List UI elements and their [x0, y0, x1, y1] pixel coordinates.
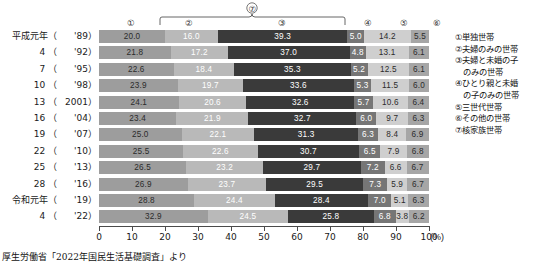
year-label: 22 （'10） [0, 145, 97, 158]
bar-row: 20.016.039.35.014.25.5 [99, 30, 429, 43]
segment-value: 3.8 [396, 212, 408, 221]
legend-item-2: ②夫婦のみの世帯 [455, 44, 540, 56]
bar-segment-5: 3.8 [396, 210, 409, 223]
axis-tick-label: 50 [258, 232, 269, 242]
axis-tick-label: 30 [192, 232, 203, 242]
bar-row: 32.924.525.86.83.86.2 [99, 210, 429, 223]
axis-tick [165, 226, 166, 231]
segment-value: 5.9 [391, 180, 403, 189]
bar-segment-5: 8.4 [378, 128, 406, 141]
year-western: '10） [57, 145, 97, 158]
segment-value: 7.0 [374, 196, 386, 205]
axis-tick [132, 226, 133, 231]
segment-value: 6.8 [412, 147, 424, 156]
bar-segment-6: 6.2 [409, 210, 429, 223]
bar-segment-6: 6.7 [407, 178, 429, 191]
axis-tick [363, 226, 364, 231]
segment-value: 5.0 [350, 32, 362, 41]
legend-item-8: ⑥その他の世帯 [455, 113, 540, 125]
year-label: 16 （'04） [0, 112, 97, 125]
bar-segment-5: 6.6 [385, 161, 407, 174]
segment-value: 30.7 [300, 147, 317, 156]
segment-value: 6.3 [413, 196, 425, 205]
bar-segment-5: 12.5 [368, 63, 409, 76]
segment-value: 29.7 [304, 163, 321, 172]
bar-row: 25.022.131.36.38.46.9 [99, 128, 429, 141]
bar-segment-4: 6.5 [359, 145, 380, 158]
bar-segment-5: 7.9 [380, 145, 406, 158]
year-label: 25 （'13） [0, 161, 97, 174]
segment-value: 22.1 [210, 130, 227, 139]
segment-value: 23.9 [130, 81, 147, 90]
segment-value: 6.7 [412, 163, 424, 172]
bar-segment-1: 26.9 [99, 178, 188, 191]
bar-row: 28.824.428.47.05.16.3 [99, 194, 429, 207]
segment-value: 6.6 [390, 163, 402, 172]
segment-value: 13.1 [379, 48, 396, 57]
bar-segment-4: 5.3 [354, 79, 371, 92]
bar-segment-6: 6.8 [407, 145, 429, 158]
bar-segment-1: 26.5 [99, 161, 186, 174]
segment-value: 7.2 [367, 163, 379, 172]
segment-value: 25.8 [323, 212, 340, 221]
bar-row: 23.919.733.65.311.56.0 [99, 79, 429, 92]
bar-segment-4: 7.3 [363, 178, 387, 191]
bar-segment-3: 35.3 [234, 63, 350, 76]
axis-tick-label: 10 [126, 232, 137, 242]
year-western: '89） [57, 30, 97, 43]
bar-segment-1: 25.0 [99, 128, 182, 141]
segment-value: 33.6 [290, 81, 307, 90]
segment-value: 31.3 [298, 130, 315, 139]
segment-value: 17.2 [191, 48, 208, 57]
bar-segment-1: 23.9 [99, 79, 178, 92]
year-era: 令和元年（ [12, 195, 57, 205]
bar-segment-6: 6.4 [408, 96, 429, 109]
segment-value: 8.4 [386, 130, 398, 139]
year-era: 13 （ [34, 97, 57, 107]
segment-value: 37.0 [280, 48, 297, 57]
year-label: 平成元年（'89） [0, 30, 97, 43]
year-era: 19 （ [34, 129, 57, 139]
bar-segment-5: 11.5 [371, 79, 409, 92]
segment-value: 14.2 [379, 32, 396, 41]
axis-tick [429, 226, 430, 231]
column-marker-2: ② [185, 19, 193, 28]
x-axis-unit: (%) [430, 232, 444, 242]
year-era: 10 （ [34, 80, 57, 90]
axis-tick-label: 70 [324, 232, 335, 242]
bar-segment-3: 33.6 [243, 79, 354, 92]
year-western: '19） [57, 194, 97, 207]
column-marker-1: ① [127, 19, 135, 28]
segment-value: 7.3 [369, 180, 381, 189]
segment-value: 6.0 [360, 114, 372, 123]
year-western: '13） [57, 161, 97, 174]
bar-segment-3: 31.3 [254, 128, 357, 141]
segment-value: 28.8 [138, 196, 155, 205]
segment-value: 32.9 [145, 212, 162, 221]
segment-value: 6.0 [413, 81, 425, 90]
bar-row: 26.923.729.57.35.96.7 [99, 178, 429, 191]
bar-segment-1: 23.4 [99, 112, 176, 125]
bar-segment-4: 6.3 [358, 128, 379, 141]
bar-segment-4: 6.8 [374, 210, 396, 223]
bar-segment-5: 5.1 [391, 194, 408, 207]
segment-value: 28.4 [313, 196, 330, 205]
column-marker-5: ⑤ [400, 19, 408, 28]
axis-tick [396, 226, 397, 231]
bar-segment-1: 28.8 [99, 194, 194, 207]
bar-segment-5: 14.2 [364, 30, 411, 43]
bar-row: 25.522.630.76.57.96.8 [99, 145, 429, 158]
segment-value: 7.9 [387, 147, 399, 156]
year-label: 28 （'16） [0, 178, 97, 191]
legend-item-9: ⑦核家族世帯 [455, 125, 540, 137]
chart-root: ⑦ ① ② ③ ④ ⑤ ⑥ 平成元年（'89）4 （'92）7 （'95）10 … [0, 0, 540, 266]
segment-value: 6.1 [413, 48, 425, 57]
year-label: 7 （'95） [0, 63, 97, 76]
year-western: 2001） [57, 96, 97, 109]
bar-segment-2: 24.4 [194, 194, 275, 207]
segment-value: 18.4 [195, 65, 212, 74]
bar-segment-2: 17.2 [171, 46, 228, 59]
bar-segment-6: 6.3 [408, 194, 429, 207]
segment-value: 24.1 [130, 98, 147, 107]
axis-tick-label: 90 [390, 232, 401, 242]
